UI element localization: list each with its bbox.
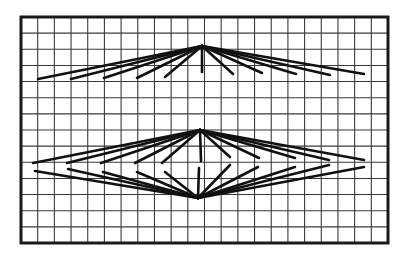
upper-fan (38, 46, 364, 79)
diagram-canvas (0, 0, 408, 258)
lower-diamond-fan (33, 130, 364, 198)
lower-lower-ray (198, 168, 199, 198)
lower-upper-ray (200, 130, 201, 161)
ray-fan-diagram (0, 0, 408, 258)
